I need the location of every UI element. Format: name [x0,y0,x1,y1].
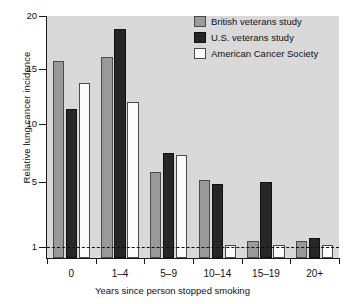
legend-item-acs: American Cancer Society [194,45,318,61]
y-tick-label: 15 [3,64,37,74]
y-tick-mark [39,69,46,70]
bar-us-20+ [309,238,321,258]
x-tick-mark [193,258,194,264]
legend-swatch-icon-british [194,16,206,27]
x-tick-mark [339,258,340,264]
y-tick-mark [39,182,46,183]
bar-british-20+ [296,241,308,258]
x-tick-mark [242,258,243,264]
y-tick-mark [39,16,46,17]
y-tick-label: 1 [3,242,37,252]
bar-us-1_4 [114,29,126,258]
reference-line-at-1 [47,247,339,248]
y-tick-label: 5 [3,177,37,187]
bar-british-1_4 [101,57,113,258]
chart-legend: British veterans study U.S. veterans stu… [194,13,318,61]
bar-acs-1_4 [127,102,139,258]
legend-swatch-icon-us [194,32,206,43]
bar-british-5_9 [150,172,162,258]
legend-item-british: British veterans study [194,13,318,29]
legend-item-us: U.S. veterans study [194,29,318,45]
y-tick-label: 20 [3,11,37,21]
y-tick-mark [39,247,46,248]
bar-acs-0 [79,83,91,258]
bar-us-5_9 [163,153,175,258]
y-tick-mark [39,124,46,125]
x-tick-label: 20+ [285,268,345,279]
x-tick-mark [144,258,145,264]
x-tick-mark [47,258,48,264]
bar-acs-5_9 [176,155,188,258]
legend-label-acs: American Cancer Society [211,48,318,59]
legend-swatch-icon-acs [194,48,206,59]
bar-british-15_19 [247,241,259,259]
lung-cancer-incidence-chart: Relative lung cancer incidence 20151051 … [0,0,345,304]
x-tick-mark [96,258,97,264]
bar-us-0 [66,109,78,258]
x-tick-mark [290,258,291,264]
y-tick-label: 10 [3,119,37,129]
bar-british-0 [53,61,65,258]
x-axis-title: Years since person stopped smoking [0,285,345,296]
legend-label-british: British veterans study [211,16,302,27]
y-axis-line [46,16,47,259]
legend-label-us: U.S. veterans study [211,32,294,43]
